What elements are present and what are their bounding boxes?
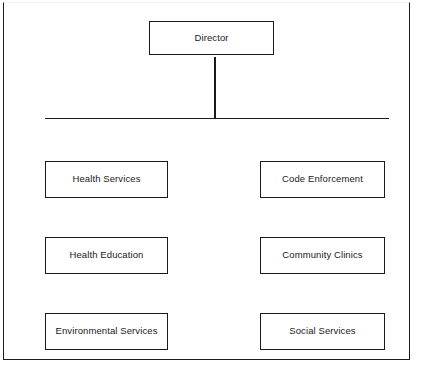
node-social-services-label: Social Services bbox=[289, 326, 355, 336]
node-community-clinics[interactable]: Community Clinics bbox=[260, 237, 385, 274]
node-health-services-label: Health Services bbox=[72, 174, 140, 184]
node-director[interactable]: Director bbox=[149, 21, 274, 55]
node-health-education[interactable]: Health Education bbox=[45, 237, 168, 274]
node-community-clinics-label: Community Clinics bbox=[282, 250, 362, 260]
node-environmental-services-label: Environmental Services bbox=[56, 326, 158, 336]
node-health-education-label: Health Education bbox=[70, 250, 144, 260]
node-code-enforcement-label: Code Enforcement bbox=[282, 174, 363, 184]
node-social-services[interactable]: Social Services bbox=[260, 313, 385, 350]
node-code-enforcement[interactable]: Code Enforcement bbox=[260, 161, 385, 198]
node-environmental-services[interactable]: Environmental Services bbox=[45, 313, 168, 350]
diagram-frame: Director Health Services Health Educatio… bbox=[3, 2, 410, 360]
horizontal-connector-icon bbox=[45, 118, 389, 120]
org-chart-canvas: Director Health Services Health Educatio… bbox=[0, 0, 421, 367]
node-director-label: Director bbox=[194, 33, 228, 43]
node-health-services[interactable]: Health Services bbox=[45, 161, 168, 198]
vertical-connector-icon bbox=[214, 57, 216, 119]
